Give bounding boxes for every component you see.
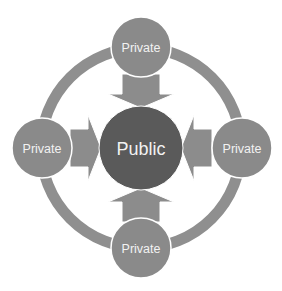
node-right-private: Private [212,118,272,178]
arrow-right [181,115,212,181]
node-left-private: Private [12,118,72,178]
center-node-public: Public [99,106,183,190]
center-label: Public [116,139,165,159]
node-bottom-label: Private [122,242,161,256]
arrow-left [70,115,101,181]
node-top-label: Private [122,41,161,55]
node-right-label: Private [223,142,262,156]
node-top-private: Private [111,17,171,77]
arrow-bottom [108,188,174,222]
arrow-top [108,74,174,108]
public-private-diagram: Public Private Private Private Private [0,0,282,291]
node-bottom-private: Private [111,218,171,278]
node-left-label: Private [23,142,62,156]
